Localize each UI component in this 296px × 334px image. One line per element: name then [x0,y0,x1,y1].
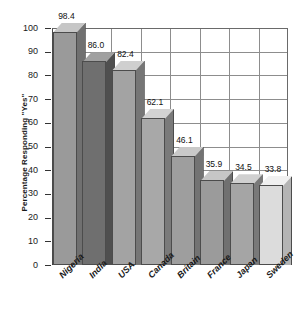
bar-front-face [259,185,283,265]
bar [141,109,174,265]
y-tick-label: 20 [4,213,38,222]
cut-off-title [140,0,290,10]
bar-front-face [53,32,77,265]
y-tick-label: 40 [4,166,38,175]
bar [82,52,115,265]
bar-value-label: 46.1 [176,136,193,145]
y-tick-mark [45,75,51,76]
y-tick-mark [45,194,51,195]
bar-value-label: 86.0 [88,41,105,50]
y-tick-mark [45,170,51,171]
y-tick-mark [45,218,51,219]
y-tick-mark [45,28,51,29]
bar-front-face [230,183,254,265]
y-tick-label: 0 [4,261,38,270]
plot-area [52,28,288,265]
bar-front-face [82,61,106,265]
y-tick-mark [45,241,51,242]
bar [230,174,263,265]
y-tick-mark [45,147,51,148]
y-tick-label: 10 [4,237,38,246]
y-tick-label: 70 [4,95,38,104]
y-tick-label: 80 [4,71,38,80]
y-tick-label: 30 [4,189,38,198]
bar-value-label: 35.9 [206,160,223,169]
bar [200,171,233,265]
bar-value-label: 82.4 [117,50,134,59]
bar-front-face [141,118,165,265]
y-tick-label: 50 [4,142,38,151]
bar-value-label: 98.4 [58,12,75,21]
bar-front-face [112,70,136,265]
bar-value-label: 34.5 [235,163,252,172]
y-tick-label: 100 [4,24,38,33]
y-tick-label: 60 [4,118,38,127]
bar [53,23,86,265]
y-tick-mark [45,52,51,53]
y-tick-label: 90 [4,47,38,56]
bar-front-face [200,180,224,265]
y-tick-mark [45,123,51,124]
bar-chart-figure: Percentage Responding "Yes" 010203040506… [0,0,296,334]
y-tick-mark [45,99,51,100]
bar [171,147,204,265]
bar-front-face [171,156,195,265]
bar [112,61,145,265]
bar-value-label: 33.8 [265,165,282,174]
y-tick-mark [45,265,51,266]
bar-value-label: 62.1 [147,98,164,107]
